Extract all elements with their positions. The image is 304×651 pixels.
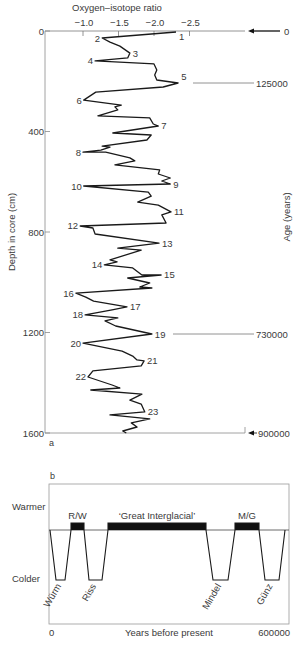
- stage-label: 20: [70, 338, 81, 349]
- stage-label: 21: [147, 355, 158, 366]
- stage-label: 18: [73, 309, 84, 320]
- glacial-curve: [50, 523, 285, 580]
- cold-stage-label: Riss: [79, 581, 98, 603]
- panel-label-a: a: [49, 438, 54, 448]
- stage-label: 10: [71, 181, 82, 192]
- panel-b-glacial-chart: b Warmer Colder R/W‘Great Interglacial’M…: [12, 471, 290, 638]
- warm-block: [108, 523, 206, 530]
- stage-label: 7: [161, 120, 166, 131]
- panel-b-frame: [49, 484, 289, 624]
- stage-label: 12: [68, 220, 79, 231]
- warmer-label: Warmer: [12, 501, 45, 512]
- x-tick-label: −2.0: [146, 17, 165, 28]
- warm-blocks: R/W‘Great Interglacial’M/G: [68, 510, 259, 530]
- stage-label: 2: [95, 33, 100, 44]
- age-label: 125000: [256, 78, 288, 89]
- x-tick-0: 0: [49, 627, 54, 638]
- warm-block-label: ‘Great Interglacial’: [119, 510, 196, 521]
- figure: Oxygen–isotope ratio −1.0−1.5−2.0−2.5 04…: [0, 0, 304, 651]
- age-markers: 0125000730000900000: [173, 26, 290, 439]
- stage-label: 15: [164, 269, 175, 280]
- stage-label: 16: [63, 288, 74, 299]
- stage-label: 8: [76, 147, 81, 158]
- panel-a-isotope-chart: Oxygen–isotope ratio −1.0−1.5−2.0−2.5 04…: [6, 2, 292, 448]
- y-axis-title: Depth in core (cm): [6, 193, 17, 271]
- y-tick-label: 400: [28, 126, 44, 137]
- stage-label: 13: [162, 238, 173, 249]
- x-tick-600000: 600000: [258, 627, 290, 638]
- cold-stage-labels: WürmRissMindelGünz: [41, 581, 275, 611]
- x-tick-label: −1.5: [110, 17, 129, 28]
- age-label: 730000: [256, 329, 288, 340]
- stage-label: 5: [181, 71, 186, 82]
- arrow-left-icon: [248, 430, 254, 435]
- stage-label: 22: [75, 371, 86, 382]
- warm-block-label: R/W: [68, 510, 87, 521]
- y-tick-label: 0: [39, 26, 44, 37]
- age-label: 900000: [258, 428, 290, 439]
- stage-label: 6: [76, 95, 81, 106]
- y-tick-label: 800: [28, 227, 44, 238]
- colder-label: Colder: [12, 573, 40, 584]
- stage-label: 14: [92, 259, 103, 270]
- depth-ticks: 040080012001600: [23, 26, 50, 439]
- stage-label: 3: [133, 48, 138, 59]
- stage-label: 19: [155, 329, 166, 340]
- stage-label: 11: [174, 206, 184, 217]
- panel-label-b: b: [50, 471, 55, 481]
- x-axis-title-b: Years before present: [125, 627, 213, 638]
- stage-label: 4: [88, 55, 93, 66]
- stage-label: 17: [130, 301, 141, 312]
- x-axis-title: Oxygen–isotope ratio: [72, 2, 162, 13]
- warm-block: [235, 523, 259, 530]
- arrow-left-icon: [248, 28, 254, 33]
- age-label: 0: [284, 26, 289, 37]
- x-tick-label: −2.5: [181, 17, 200, 28]
- stage-label: 9: [173, 179, 178, 190]
- stage-label: 23: [148, 406, 159, 417]
- stage-label: 1: [179, 31, 184, 42]
- y-tick-label: 1200: [23, 327, 44, 338]
- warm-block-label: M/G: [238, 510, 256, 521]
- x-tick-label: −1.0: [75, 17, 94, 28]
- age-axis-title: Age (years): [281, 192, 292, 241]
- isotope-curve: [76, 32, 178, 433]
- cold-stage-label: Mindel: [200, 582, 224, 612]
- cold-stage-label: Günz: [254, 581, 275, 606]
- warm-block: [71, 523, 84, 530]
- cold-stage-label: Würm: [41, 581, 63, 609]
- y-tick-label: 1600: [23, 428, 44, 439]
